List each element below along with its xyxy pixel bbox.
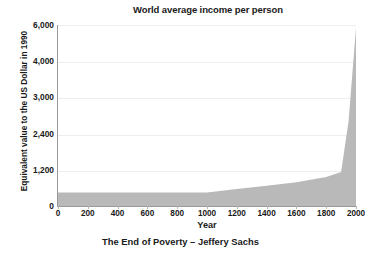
x-tick-label: 2000 xyxy=(347,209,365,218)
x-tick-mark xyxy=(147,206,148,209)
x-tick-label: 800 xyxy=(170,209,184,218)
x-axis-title: Year xyxy=(58,220,356,230)
chart-caption: The End of Poverty – Jeffery Sachs xyxy=(0,236,361,247)
x-tick-label: 200 xyxy=(81,209,95,218)
x-tick-mark xyxy=(207,206,208,209)
x-tick-label: 1200 xyxy=(228,209,246,218)
x-tick-label: 400 xyxy=(111,209,125,218)
income-area-series xyxy=(58,25,356,206)
x-tick-mark xyxy=(58,206,59,209)
x-tick-mark xyxy=(356,206,357,209)
x-tick-label: 600 xyxy=(141,209,155,218)
x-tick-label: 1000 xyxy=(198,209,216,218)
chart-title: World average income per person xyxy=(58,4,358,15)
x-tick-label: 1400 xyxy=(257,209,275,218)
y-tick-label: 3,000 xyxy=(2,92,54,102)
x-tick-label: 1800 xyxy=(317,209,335,218)
x-tick-mark xyxy=(267,206,268,209)
y-axis-line xyxy=(57,25,58,207)
y-tick-label: 1,200 xyxy=(2,165,54,175)
y-tick-label: 2,400 xyxy=(2,129,54,139)
x-tick-mark xyxy=(237,206,238,209)
y-tick-label: 4,000 xyxy=(2,56,54,66)
x-tick-label: 0 xyxy=(56,209,61,218)
y-tick-label: 6,000 xyxy=(2,20,54,30)
x-tick-mark xyxy=(296,206,297,209)
x-tick-mark xyxy=(118,206,119,209)
x-tick-label: 1600 xyxy=(287,209,305,218)
x-tick-mark xyxy=(88,206,89,209)
x-tick-mark xyxy=(177,206,178,209)
x-tick-mark xyxy=(326,206,327,209)
plot-area xyxy=(58,25,356,206)
